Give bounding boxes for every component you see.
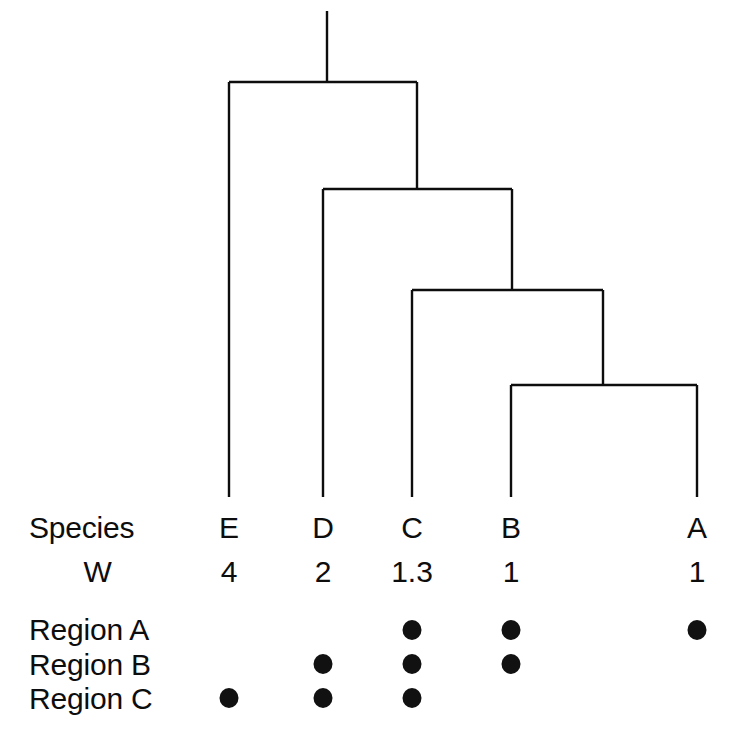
- presence-dot-region-a-c: [403, 620, 422, 640]
- weight-value-C: 1.3: [391, 557, 433, 587]
- weight-value-B: 1: [503, 557, 520, 587]
- character-matrix: Species W Region A Region B Region C E D…: [0, 0, 730, 743]
- presence-dot-region-c-e: [220, 688, 239, 708]
- row-label-species: Species: [29, 513, 134, 543]
- presence-dot-region-c-d: [314, 688, 333, 708]
- row-label-weight: W: [29, 557, 166, 587]
- phylogeny-figure: Species W Region A Region B Region C E D…: [0, 0, 730, 743]
- presence-dot-region-a-b: [502, 620, 521, 640]
- presence-dot-region-b-c: [403, 654, 422, 674]
- species-label-C: C: [401, 513, 423, 543]
- weight-value-E: 4: [221, 557, 238, 587]
- row-label-region-b: Region B: [29, 650, 151, 680]
- species-label-B: B: [501, 513, 521, 543]
- row-label-region-c: Region C: [29, 684, 152, 714]
- row-label-region-a: Region A: [29, 615, 149, 645]
- species-label-D: D: [312, 513, 334, 543]
- species-label-A: A: [687, 513, 707, 543]
- presence-dot-region-b-d: [314, 654, 333, 674]
- presence-dot-region-a-a: [688, 620, 707, 640]
- species-label-E: E: [219, 513, 239, 543]
- presence-dot-region-c-c: [403, 688, 422, 708]
- presence-dot-region-b-b: [502, 654, 521, 674]
- weight-value-D: 2: [315, 557, 332, 587]
- weight-value-A: 1: [689, 557, 706, 587]
